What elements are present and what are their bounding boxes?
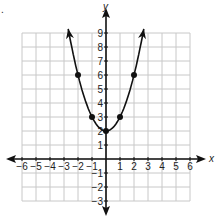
x-tick-label: −6 [16, 161, 28, 172]
x-tick-label: 5 [173, 161, 179, 172]
x-tick-label: −3 [58, 161, 70, 172]
x-tick-label: 4 [159, 161, 165, 172]
x-tick-label: 2 [131, 161, 137, 172]
x-tick-label: −5 [30, 161, 42, 172]
data-point [117, 114, 123, 120]
x-axis-label: x [208, 153, 215, 164]
data-point [75, 72, 81, 78]
data-point [89, 114, 95, 120]
x-tick-label: −2 [72, 161, 84, 172]
x-tick-label: 6 [187, 161, 193, 172]
y-tick-label: 6 [97, 70, 103, 81]
x-tick-label: −4 [44, 161, 56, 172]
parabola-chart: xy −6−5−4−3−2−1123456−3−2−1123456789 [0, 0, 215, 219]
y-tick-label: 3 [97, 112, 103, 123]
y-tick-label: −1 [92, 168, 104, 179]
x-tick-label: 1 [117, 161, 123, 172]
y-tick-label: 7 [97, 56, 103, 67]
y-tick-label: 4 [97, 98, 103, 109]
data-point [131, 72, 137, 78]
y-tick-label: −3 [92, 196, 104, 207]
y-tick-label: −2 [92, 182, 104, 193]
y-tick-label: 8 [97, 42, 103, 53]
y-tick-label: 5 [97, 84, 103, 95]
y-tick-label: 9 [97, 28, 103, 39]
x-tick-label: 3 [145, 161, 151, 172]
y-axis-label: y [102, 1, 109, 12]
data-point [103, 128, 109, 134]
y-tick-label: 1 [97, 140, 103, 151]
